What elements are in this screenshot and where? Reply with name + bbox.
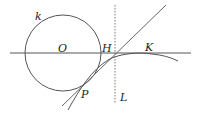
label-l: L xyxy=(119,91,127,104)
line-through-h-p xyxy=(62,5,166,106)
geometry-diagram: k O H K P L xyxy=(0,0,197,113)
label-k-curve: K xyxy=(144,41,154,54)
label-k: k xyxy=(35,10,42,23)
diagram-svg: k O H K P L xyxy=(0,0,197,113)
label-p: P xyxy=(80,88,89,101)
label-o: O xyxy=(58,42,67,55)
label-h: H xyxy=(101,42,112,55)
